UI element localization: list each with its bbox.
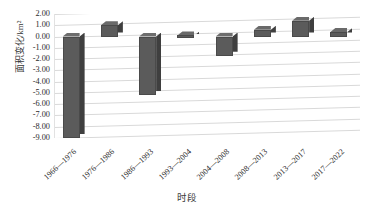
gridline <box>54 73 360 82</box>
y-tick-label: 0.00 <box>35 33 50 41</box>
gridline <box>54 14 360 15</box>
bar <box>216 37 233 56</box>
gridline <box>54 130 360 138</box>
bar-front-face <box>254 30 271 37</box>
bar <box>292 21 309 37</box>
bar-front-face <box>216 37 233 56</box>
gridline <box>54 118 360 127</box>
gridline <box>54 107 360 116</box>
bar <box>254 30 271 37</box>
bar-front-face <box>139 37 156 96</box>
bar-front-face <box>292 21 309 37</box>
y-tick-label: -9.00 <box>33 134 50 142</box>
bar-front-face <box>177 35 194 38</box>
bar-front-face <box>101 25 118 36</box>
bar-side-face <box>80 33 85 134</box>
y-tick-label: -3.00 <box>33 66 50 74</box>
y-axis-tick-labels: 2.001.000.00-1.00-2.00-3.00-4.00-5.00-6.… <box>22 14 50 138</box>
gridline <box>54 51 360 60</box>
y-tick-label: -7.00 <box>33 111 50 119</box>
bar-front-face <box>63 37 80 138</box>
bar-side-face <box>156 33 161 92</box>
gridline <box>54 40 360 49</box>
plot-area <box>54 14 360 138</box>
gridline <box>54 96 360 105</box>
bar <box>177 35 194 38</box>
y-tick-label: -8.00 <box>33 123 50 131</box>
x-axis-title: 时段 <box>0 190 374 204</box>
bar <box>139 37 156 96</box>
chart-container: 面积变化/km² 2.001.000.00-1.00-2.00-3.00-4.0… <box>0 0 374 212</box>
y-tick-label: -1.00 <box>33 44 50 52</box>
y-tick-label: -5.00 <box>33 89 50 97</box>
y-tick-label: -4.00 <box>33 78 50 86</box>
y-tick-label: 2.00 <box>35 10 50 18</box>
bar <box>330 32 347 37</box>
bar <box>63 37 80 138</box>
y-tick-label: -2.00 <box>33 55 50 63</box>
gridline <box>54 85 360 94</box>
bar <box>101 25 118 36</box>
y-tick-label: 1.00 <box>35 21 50 29</box>
y-tick-label: -6.00 <box>33 100 50 108</box>
axis-left <box>54 14 55 138</box>
bar-front-face <box>330 32 347 37</box>
gridline <box>54 62 360 71</box>
